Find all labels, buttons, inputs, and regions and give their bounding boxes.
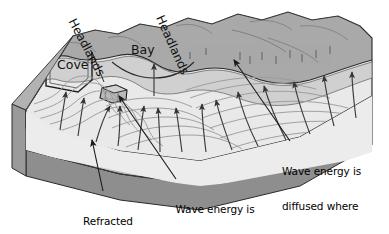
terrain-label-bay: Bay	[131, 42, 155, 57]
annotation-line: diffused where	[282, 201, 388, 213]
annotation-refracted-wavefronts: Refracted wavefronts	[60, 193, 156, 234]
annotation-line: Wave energy is	[282, 166, 388, 178]
figure-canvas: Cove Headlands Bay Headlands Refracted w…	[0, 0, 389, 234]
annotation-energy-diffused: Wave energy is diffused where waves dive…	[282, 143, 388, 234]
annotation-line: Wave energy is	[152, 204, 278, 216]
terrain-label-cove: Cove	[57, 57, 88, 72]
annotation-energy-concentrated: Wave energy is concentrated where waves …	[152, 181, 278, 234]
annotation-line: Refracted	[60, 216, 156, 228]
